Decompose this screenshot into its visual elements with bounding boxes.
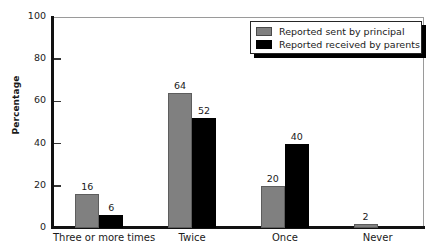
y-tick-label-80: 80	[0, 52, 46, 63]
y-tick-label-0: 0	[0, 221, 46, 232]
legend-item-received: Reported received by parents	[256, 39, 416, 52]
y-tick-label-20: 20	[0, 179, 46, 190]
bar-value-label: 2	[346, 211, 386, 222]
x-axis-label-3: Never	[331, 232, 424, 243]
gray-swatch-icon	[256, 27, 272, 36]
bar-received-2	[285, 144, 309, 228]
bar-value-label: 64	[160, 80, 200, 91]
bar-received-0	[99, 215, 123, 228]
bar-value-label: 16	[67, 181, 107, 192]
bar-sent-3	[354, 224, 378, 228]
bar-received-1	[192, 118, 216, 228]
y-tick-label-60: 60	[0, 94, 46, 105]
x-axis-label-0: Three or more times	[53, 232, 146, 243]
bar-value-label: 40	[277, 131, 317, 142]
y-tick-label-40: 40	[0, 137, 46, 148]
y-tick-label-100: 100	[0, 10, 46, 21]
x-axis-label-1: Twice	[146, 232, 239, 243]
legend-label-sent: Reported sent by principal	[279, 26, 405, 37]
legend: Reported sent by principal Reported rece…	[250, 21, 422, 54]
black-swatch-icon	[256, 40, 272, 49]
legend-item-sent: Reported sent by principal	[256, 25, 416, 38]
bar-chart: Percentage 020406080100 166645220402 Thr…	[0, 0, 438, 252]
bar-value-label: 6	[91, 202, 131, 213]
legend-label-received: Reported received by parents	[279, 39, 420, 50]
bar-sent-2	[261, 186, 285, 228]
x-axis-label-2: Once	[239, 232, 332, 243]
bar-value-label: 52	[184, 105, 224, 116]
